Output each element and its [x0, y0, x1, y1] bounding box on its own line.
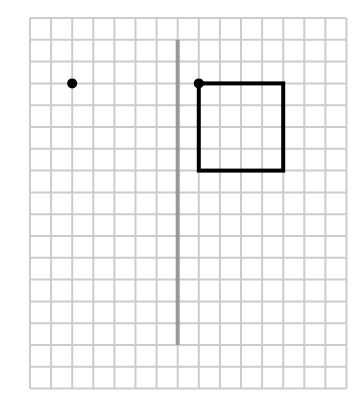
point-left-dot — [67, 78, 77, 88]
point-square-corner-dot — [194, 78, 204, 88]
grid-lines — [30, 18, 347, 389]
reflection-grid-diagram — [0, 0, 360, 414]
